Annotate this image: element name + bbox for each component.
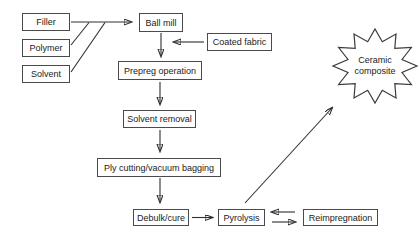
- node-ply-cutting-vacuum-bagging: Ply cutting/vacuum bagging: [97, 158, 221, 177]
- node-coated-fabric: Coated fabric: [207, 33, 272, 51]
- node-debulk-cure: Debulk/cure: [133, 209, 189, 226]
- node-prepreg-operation: Prepreg operation: [118, 61, 202, 80]
- node-reimpregnation: Reimpregnation: [303, 209, 378, 226]
- node-ceramic-composite-label: Ceramic composite: [342, 52, 408, 80]
- flowchart-canvas: Filler Polymer Solvent Ball mill Coated …: [0, 0, 419, 236]
- node-pyrolysis: Pyrolysis: [218, 209, 265, 226]
- node-solvent: Solvent: [22, 65, 70, 83]
- node-filler: Filler: [22, 13, 70, 31]
- node-ball-mill: Ball mill: [139, 13, 183, 32]
- edge-polymer-merge-line: [71, 23, 89, 46]
- edge-solvent-merge-line: [71, 23, 105, 73]
- node-polymer: Polymer: [22, 39, 70, 57]
- node-solvent-removal: Solvent removal: [123, 110, 196, 128]
- edge-pyrolysis-to-ceramic-composite: [245, 108, 332, 203]
